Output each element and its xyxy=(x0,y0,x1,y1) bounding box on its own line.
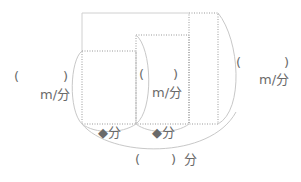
speed3-open-paren: ( xyxy=(236,56,241,69)
speed1-close-paren: ) xyxy=(63,70,68,83)
time2-label: ◆分 xyxy=(152,126,175,139)
arc-speed1 xyxy=(72,51,82,124)
speed3-close-paren: ) xyxy=(284,56,289,69)
speed2-unit: m/分 xyxy=(152,86,182,99)
total-open-paren: ( xyxy=(135,153,140,166)
rect-1 xyxy=(82,51,136,124)
outer-frame xyxy=(82,13,189,51)
speed2-open-paren: ( xyxy=(139,68,144,81)
time1-label: ◆分 xyxy=(98,126,121,139)
speed3-unit: m/分 xyxy=(259,73,289,86)
total-unit: 分 xyxy=(184,153,197,166)
arc-speed3 xyxy=(218,13,236,124)
rect-3 xyxy=(189,13,218,124)
speed2-close-paren: ) xyxy=(173,68,178,81)
speed1-unit: m/分 xyxy=(40,88,70,101)
speed1-open-paren: ( xyxy=(14,70,19,83)
total-close-paren: ) xyxy=(171,153,176,166)
speed-time-rects xyxy=(82,13,218,124)
